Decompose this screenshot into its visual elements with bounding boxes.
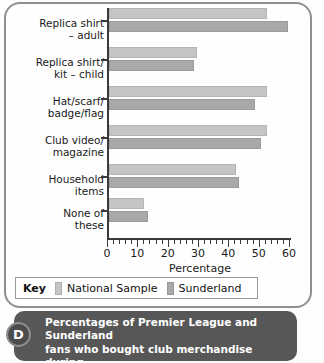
x-axis-major-tick [228, 240, 229, 247]
x-axis-minor-tick [174, 240, 175, 244]
category-labels: Replica shirt– adultReplica shirt/kit – … [8, 8, 104, 238]
legend-label-sunderland: Sunderland [179, 282, 242, 295]
bar-sunderland [109, 138, 261, 149]
x-axis-minor-tick [283, 240, 284, 244]
x-axis-minor-tick [119, 240, 120, 244]
figure-badge: D [6, 322, 31, 347]
bar-sunderland [109, 60, 194, 71]
x-axis-minor-tick [265, 240, 266, 244]
x-axis-minor-tick [180, 240, 181, 244]
y-axis-tick [101, 210, 108, 212]
bar-national-sample [109, 8, 267, 19]
x-axis-major-tick [137, 240, 138, 247]
x-axis-tick-label: 50 [244, 247, 274, 260]
x-axis-major-tick [289, 240, 290, 247]
figure-caption-text: Percentages of Premier League and Sunder… [45, 316, 291, 363]
bar-sunderland [109, 211, 148, 222]
x-axis-minor-tick [240, 240, 241, 244]
x-axis-tick-label: 0 [92, 247, 122, 260]
x-axis-minor-tick [125, 240, 126, 244]
chart-plot-area: Replica shirt– adultReplica shirt/kit – … [0, 0, 324, 308]
legend-item-national-sample: National Sample [55, 282, 158, 295]
bar-sunderland [109, 21, 288, 32]
bar-sunderland [109, 177, 239, 188]
bars-container [109, 8, 299, 238]
x-axis-minor-tick [156, 240, 157, 244]
x-axis-tick-label: 60 [274, 247, 304, 260]
x-axis-tick-label: 30 [183, 247, 213, 260]
bar-national-sample [109, 86, 267, 97]
bar-national-sample [109, 47, 197, 58]
x-axis-tick-label: 40 [213, 247, 243, 260]
figure-caption-bar: D Percentages of Premier League and Sund… [14, 311, 297, 361]
x-axis-minor-tick [222, 240, 223, 244]
x-axis-minor-tick [210, 240, 211, 244]
legend-label-national-sample: National Sample [67, 282, 158, 295]
x-axis-minor-tick [234, 240, 235, 244]
chart-legend: Key National Sample Sunderland [15, 277, 258, 299]
legend-swatch-icon [167, 282, 174, 295]
category-label: None ofthese [8, 208, 104, 231]
figure-card: Replica shirt– adultReplica shirt/kit – … [0, 0, 324, 363]
x-axis-minor-tick [204, 240, 205, 244]
y-axis-tick [101, 20, 108, 22]
x-axis-minor-tick [253, 240, 254, 244]
x-axis-major-tick [198, 240, 199, 247]
y-axis-tick [101, 137, 108, 139]
legend-item-sunderland: Sunderland [167, 282, 242, 295]
x-axis-minor-tick [271, 240, 272, 244]
x-axis-major-tick [168, 240, 169, 247]
legend-swatch-icon [55, 282, 62, 295]
y-axis-tick [101, 98, 108, 100]
y-axis-tick [101, 59, 108, 61]
bar-national-sample [109, 164, 236, 175]
x-axis-tick-label: 10 [122, 247, 152, 260]
category-label: Club video/magazine [8, 135, 104, 158]
x-axis-minor-tick [186, 240, 187, 244]
x-axis-major-tick [259, 240, 260, 247]
bar-national-sample [109, 198, 144, 209]
y-axis-tick [101, 176, 108, 178]
x-axis-minor-tick [131, 240, 132, 244]
bar-sunderland [109, 99, 255, 110]
legend-title: Key [23, 282, 46, 295]
x-axis-minor-tick [192, 240, 193, 244]
x-axis-minor-tick [277, 240, 278, 244]
x-axis-tick-label: 20 [153, 247, 183, 260]
x-axis-minor-tick [113, 240, 114, 244]
category-label: Replica shirt/kit – child [8, 57, 104, 80]
category-label: Hat/scarf/badge/flag [8, 96, 104, 119]
x-axis-title: Percentage [107, 262, 293, 275]
x-axis-minor-tick [247, 240, 248, 244]
x-axis-minor-tick [143, 240, 144, 244]
x-axis-minor-tick [162, 240, 163, 244]
category-label: Householditems [8, 174, 104, 197]
x-axis-minor-tick [216, 240, 217, 244]
x-axis-minor-tick [149, 240, 150, 244]
x-axis-tick-labels: 0102030405060 [0, 247, 324, 261]
category-label: Replica shirt– adult [8, 18, 104, 41]
bar-national-sample [109, 125, 267, 136]
x-axis-major-tick [107, 240, 108, 247]
